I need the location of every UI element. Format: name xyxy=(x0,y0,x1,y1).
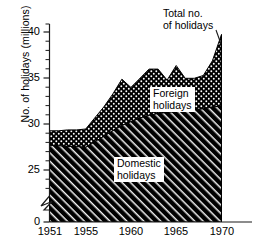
y-tick-label-35: 35 xyxy=(18,72,40,83)
y-tick-label-30: 30 xyxy=(18,118,40,129)
total-holidays-annotation: Total no. of holidays xyxy=(163,8,213,31)
domestic-holidays-label: Domestic holidays xyxy=(114,157,164,182)
chart-figure: No. of holidays (millions) 40 35 30 25 0… xyxy=(0,0,266,249)
domestic-holidays-label-line2: holidays xyxy=(117,170,161,182)
x-tick-label-1970: 1970 xyxy=(205,226,239,237)
total-holidays-annotation-line1: Total no. xyxy=(163,8,213,20)
foreign-holidays-label-line2: holidays xyxy=(153,100,192,112)
domestic-holidays-label-line1: Domestic xyxy=(117,158,161,170)
y-tick-label-40: 40 xyxy=(18,26,40,37)
foreign-holidays-label-line1: Foreign xyxy=(153,88,192,100)
y-tick-label-25: 25 xyxy=(18,164,40,175)
total-holidays-annotation-line2: of holidays xyxy=(163,20,213,32)
y-major-ticks xyxy=(44,32,50,222)
x-tick-label-1951: 1951 xyxy=(33,226,67,237)
x-tick-label-1955: 1955 xyxy=(69,226,103,237)
foreign-holidays-label: Foreign holidays xyxy=(150,87,195,112)
x-tick-label-1965: 1965 xyxy=(159,226,193,237)
x-tick-label-1960: 1960 xyxy=(114,226,148,237)
